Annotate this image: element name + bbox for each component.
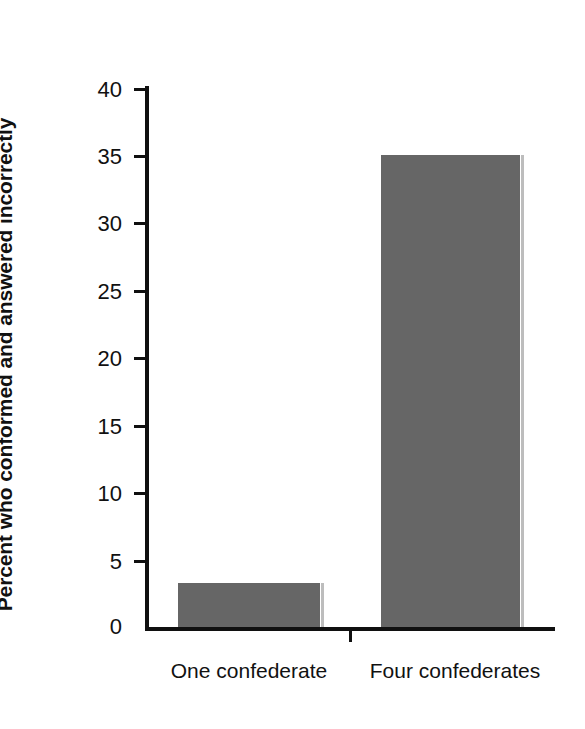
y-tick-label-0: 0 <box>110 616 122 638</box>
bar-four-confederates <box>381 155 520 627</box>
y-tick-40: 40 <box>134 88 149 91</box>
y-tick-25: 25 <box>134 290 149 293</box>
bar-one-confederate <box>178 583 320 627</box>
bar-edge-highlight <box>521 155 524 627</box>
y-tick-label-5: 5 <box>110 551 122 573</box>
bar-chart-figure: Percent who conformed and answered incor… <box>0 0 585 729</box>
y-tick-label-35: 35 <box>98 146 122 168</box>
x-category-label-four-confederates: Four confederates <box>360 660 550 681</box>
y-tick-label-25: 25 <box>98 281 122 303</box>
bar-edge-highlight <box>321 583 324 627</box>
x-tick-midpoint <box>349 627 352 642</box>
y-axis-title: Percent who conformed and answered incor… <box>0 0 46 729</box>
y-tick-20: 20 <box>134 357 149 360</box>
y-tick-label-15: 15 <box>98 416 122 438</box>
y-tick-30: 30 <box>134 222 149 225</box>
y-tick-label-40: 40 <box>98 79 122 101</box>
y-tick-35: 35 <box>134 155 149 158</box>
y-tick-15: 15 <box>134 425 149 428</box>
plot-area: 40 35 30 25 20 15 10 5 0 <box>145 88 555 627</box>
x-category-label-one-confederate: One confederate <box>159 660 339 681</box>
y-tick-label-30: 30 <box>98 213 122 235</box>
y-tick-10: 10 <box>134 492 149 495</box>
y-tick-label-10: 10 <box>98 483 122 505</box>
y-tick-label-20: 20 <box>98 348 122 370</box>
y-tick-5: 5 <box>134 560 149 563</box>
